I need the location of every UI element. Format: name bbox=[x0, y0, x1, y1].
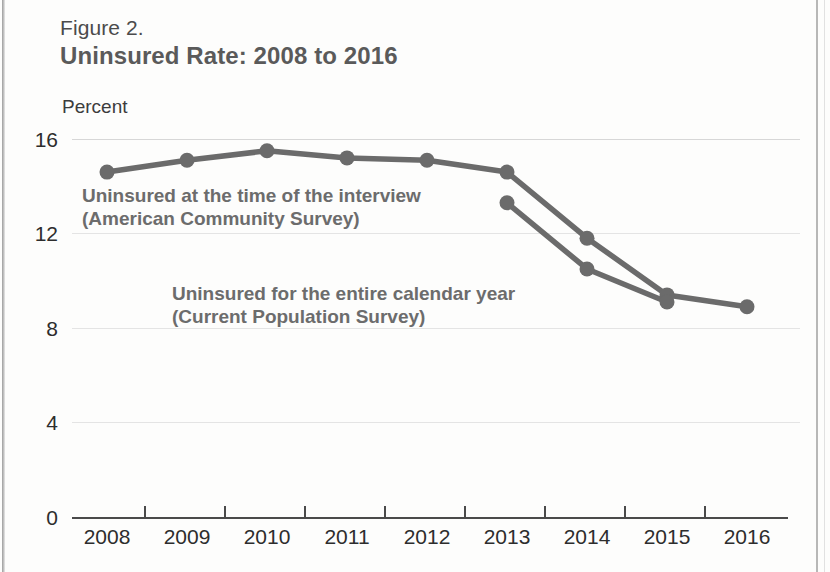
data-point-2014 bbox=[580, 261, 595, 276]
annotation-current-population-survey: Uninsured for the entire calendar year (… bbox=[172, 282, 515, 328]
data-point-2015 bbox=[660, 295, 675, 310]
annotation-acs-line-1: Uninsured at the time of the interview bbox=[82, 184, 421, 207]
annotation-cps-line-1: Uninsured for the entire calendar year bbox=[172, 282, 515, 305]
series-current-population-survey bbox=[500, 195, 675, 309]
data-point-2013 bbox=[500, 195, 515, 210]
annotation-acs-line-2: (American Community Survey) bbox=[82, 207, 421, 230]
data-point-2008 bbox=[100, 165, 115, 180]
data-point-2016 bbox=[740, 299, 755, 314]
figure-panel: Figure 2. Uninsured Rate: 2008 to 2016 P… bbox=[0, 0, 830, 572]
annotation-cps-line-2: (Current Population Survey) bbox=[172, 305, 515, 328]
data-point-2010 bbox=[260, 143, 275, 158]
annotation-american-community-survey: Uninsured at the time of the interview (… bbox=[82, 184, 421, 230]
data-point-2013 bbox=[500, 165, 515, 180]
data-point-2012 bbox=[420, 153, 435, 168]
data-point-2011 bbox=[340, 150, 355, 165]
data-point-2014 bbox=[580, 231, 595, 246]
data-point-2009 bbox=[180, 153, 195, 168]
series-line bbox=[507, 203, 667, 302]
